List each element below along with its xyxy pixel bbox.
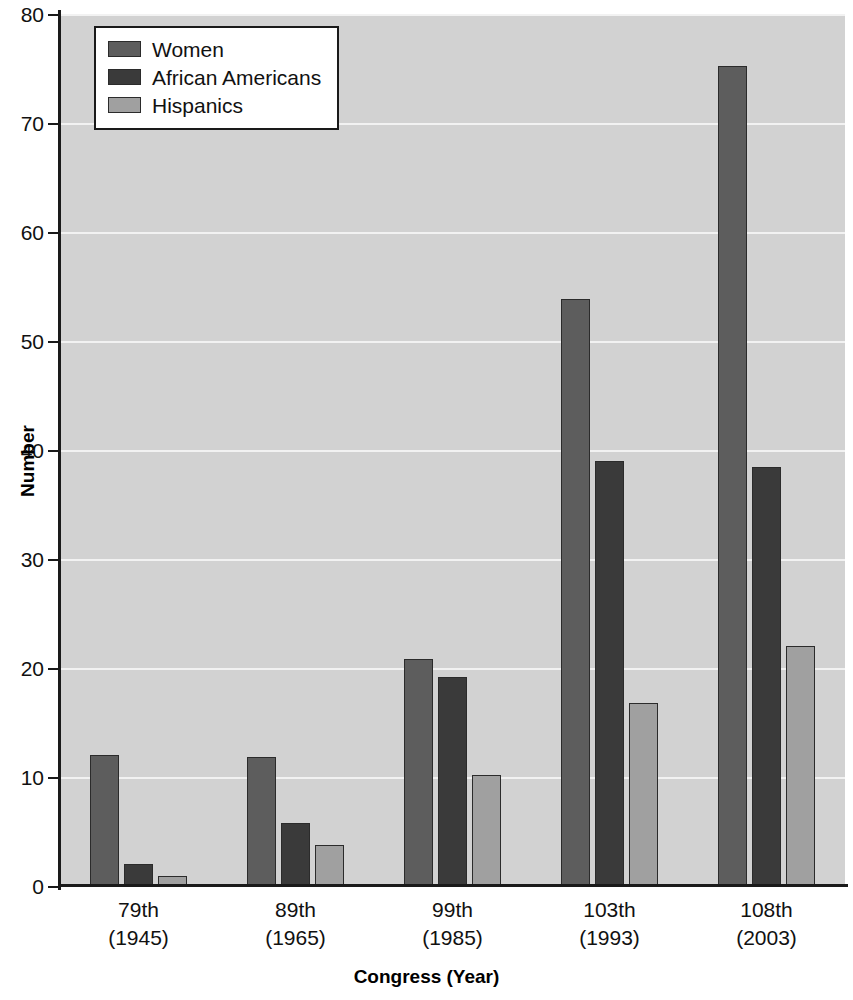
y-tick-mark-30 <box>48 559 60 561</box>
x-tick-congress-3: 103th <box>583 898 636 921</box>
legend-label-hispanics: Hispanics <box>152 95 243 116</box>
bar-african-1 <box>281 823 310 886</box>
bar-women-1 <box>247 757 276 886</box>
x-tick-label-3: 103th(1993) <box>530 896 690 951</box>
legend-swatch-hispanics-icon <box>108 97 141 113</box>
x-tick-year-1: (1965) <box>216 924 376 952</box>
legend-swatch-women-icon <box>108 41 141 57</box>
x-tick-label-2: 99th(1985) <box>373 896 533 951</box>
y-axis-title: Number <box>17 401 39 521</box>
x-tick-label-4: 108th(2003) <box>687 896 847 951</box>
bar-african-4 <box>752 467 781 886</box>
x-tick-congress-1: 89th <box>275 898 316 921</box>
legend-label-african-americans: African Americans <box>152 67 321 88</box>
bar-women-4 <box>718 66 747 886</box>
bar-women-2 <box>404 659 433 886</box>
y-tick-mark-20 <box>48 668 60 670</box>
legend-item-african-americans: African Americans <box>108 63 321 91</box>
y-tick-label-10: 10 <box>0 767 44 788</box>
x-tick-year-2: (1985) <box>373 924 533 952</box>
y-tick-mark-70 <box>48 123 60 125</box>
bar-african-2 <box>438 677 467 886</box>
bar-women-3 <box>561 299 590 887</box>
x-tick-congress-2: 99th <box>432 898 473 921</box>
bar-hispanic-1 <box>315 845 344 886</box>
y-tick-mark-40 <box>48 450 60 452</box>
y-tick-mark-50 <box>48 341 60 343</box>
x-tick-year-4: (2003) <box>687 924 847 952</box>
y-tick-mark-10 <box>48 777 60 779</box>
y-tick-label-70: 70 <box>0 113 44 134</box>
x-tick-label-1: 89th(1965) <box>216 896 376 951</box>
y-tick-mark-80 <box>48 14 60 16</box>
legend-item-women: Women <box>108 35 321 63</box>
bar-women-0 <box>90 755 119 886</box>
bar-hispanic-2 <box>472 775 501 886</box>
legend-item-hispanics: Hispanics <box>108 91 321 119</box>
legend-swatch-african-americans-icon <box>108 69 141 85</box>
y-tick-mark-0 <box>48 886 60 888</box>
bar-hispanic-3 <box>629 703 658 886</box>
x-tick-year-0: (1945) <box>59 924 219 952</box>
y-tick-label-80: 80 <box>0 4 44 25</box>
x-axis-line <box>58 884 848 887</box>
x-tick-year-3: (1993) <box>530 924 690 952</box>
bars-layer <box>60 14 845 886</box>
bar-african-3 <box>595 461 624 886</box>
x-tick-congress-4: 108th <box>740 898 793 921</box>
y-tick-label-60: 60 <box>0 222 44 243</box>
bar-hispanic-4 <box>786 646 815 886</box>
y-tick-label-30: 30 <box>0 549 44 570</box>
y-tick-label-20: 20 <box>0 658 44 679</box>
legend-label-women: Women <box>152 39 224 60</box>
x-tick-congress-0: 79th <box>118 898 159 921</box>
y-tick-label-50: 50 <box>0 331 44 352</box>
chart-legend: Women African Americans Hispanics <box>94 26 339 130</box>
bar-african-0 <box>124 864 153 886</box>
y-tick-label-0: 0 <box>0 876 44 897</box>
bar-chart-figure: 01020304050607080 Number 79th(1945)89th(… <box>0 0 853 1000</box>
y-tick-mark-60 <box>48 232 60 234</box>
x-axis-title: Congress (Year) <box>0 966 853 988</box>
x-tick-label-0: 79th(1945) <box>59 896 219 951</box>
